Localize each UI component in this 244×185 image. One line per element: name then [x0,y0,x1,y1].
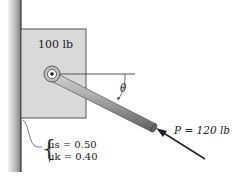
kinetic-friction-label: μk = 0.40 [48,151,98,162]
block-weight-label: 100 lb [38,38,73,51]
friction-leader [23,120,42,147]
wall [8,0,21,172]
angle-label: θ [120,82,126,94]
force-label: P = 120 lb [174,124,230,136]
static-friction-label: μs = 0.50 [48,139,97,150]
pin-icon [44,66,60,82]
